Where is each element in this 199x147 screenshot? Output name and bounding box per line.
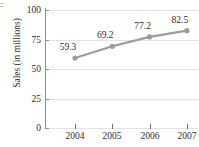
data-point-label: 69.2 — [88, 30, 122, 40]
data-point-marker — [110, 44, 115, 49]
data-point-label: 77.2 — [126, 21, 160, 31]
data-point-marker — [147, 34, 152, 39]
data-point-label: 59.3 — [51, 42, 85, 52]
data-point-marker — [184, 28, 189, 33]
line-chart: :: Sales (in millions) 0255075100 200420… — [0, 0, 199, 147]
data-point-marker — [72, 55, 77, 60]
data-point-label: 82.5 — [163, 15, 197, 25]
